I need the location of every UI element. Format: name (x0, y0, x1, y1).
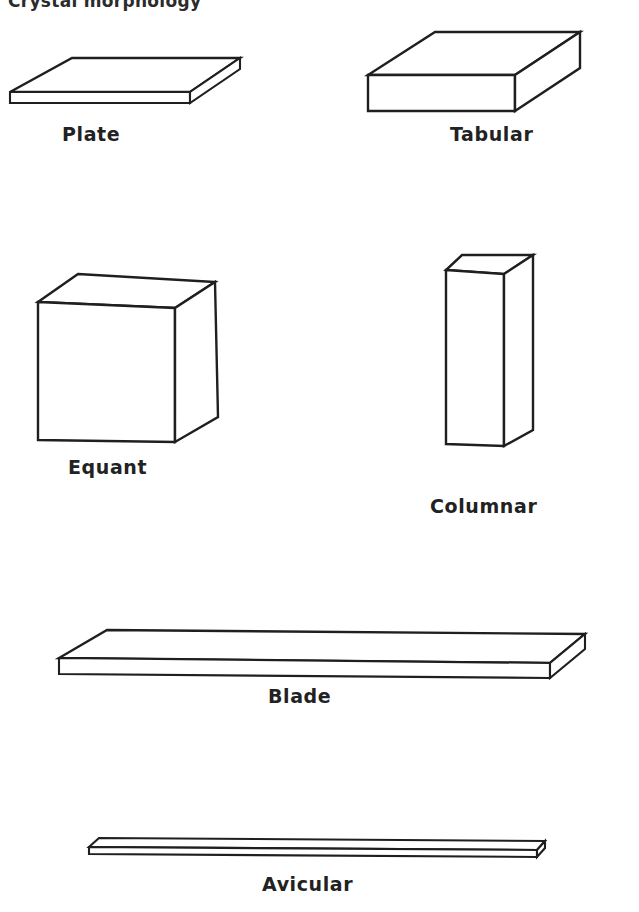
crystal-morphology-figure: Crystal morphology Plate Tabular (0, 0, 639, 912)
shape-label-equant: Equant (68, 456, 147, 478)
tabular-drawing (350, 22, 620, 127)
figure-title: Crystal morphology (8, 0, 201, 11)
avicular-drawing (75, 830, 565, 870)
shape-avicular (75, 830, 565, 870)
avicular-front-face (89, 847, 537, 857)
shape-tabular (350, 22, 620, 127)
plate-drawing (0, 40, 260, 120)
columnar-right-face (504, 255, 533, 446)
shape-label-plate: Plate (62, 123, 120, 145)
shape-label-columnar: Columnar (430, 495, 537, 517)
columnar-front-face (446, 270, 504, 446)
shape-equant (30, 262, 230, 452)
equant-front-face (38, 302, 175, 442)
tabular-front-face (368, 75, 515, 111)
columnar-drawing (400, 244, 580, 494)
shape-label-tabular: Tabular (450, 123, 533, 145)
shape-label-blade: Blade (268, 685, 331, 707)
equant-drawing (30, 262, 230, 452)
shape-label-avicular: Avicular (262, 873, 353, 895)
equant-right-face (175, 282, 218, 442)
shape-plate (0, 40, 260, 120)
plate-front-face (10, 92, 190, 103)
shape-columnar (400, 244, 580, 494)
